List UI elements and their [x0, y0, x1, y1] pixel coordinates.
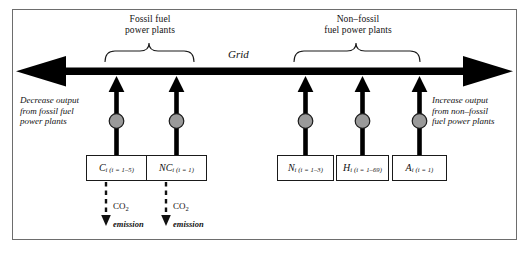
plant-box-C-range: (i = 1–5) — [109, 166, 134, 173]
emission-caption-C: emission — [113, 219, 144, 229]
group-label-non-fossil-line1: Non–fossil — [298, 14, 418, 25]
group-label-non-fossil-line2: fuel power plants — [298, 25, 418, 36]
note-increase-line1: Increase output — [432, 95, 528, 106]
plant-box-N-label: Ni (i = 1–3) — [288, 162, 323, 173]
plant-box-C[interactable]: Ci (i = 1–5) — [86, 155, 147, 181]
plant-box-NC-index: i — [172, 166, 174, 173]
emission-caption-NC: emission — [173, 219, 204, 229]
group-label-fossil-line1: Fossil fuel — [100, 14, 200, 25]
note-increase-output: Increase output from non–fossil fuel pow… — [432, 95, 528, 127]
co2-label-NC: CO2 — [173, 201, 189, 212]
group-label-fossil: Fossil fuel power plants — [100, 14, 200, 36]
plant-box-C-symbol: C — [99, 162, 106, 173]
note-decrease-line3: power plants — [20, 116, 115, 127]
co2-label-C-text: CO — [113, 201, 126, 211]
plant-box-H-index: i — [350, 166, 352, 173]
plant-box-N[interactable]: Ni (i = 1–3) — [277, 155, 334, 181]
note-decrease-line1: Decrease output — [20, 95, 115, 106]
plant-box-A[interactable]: Ai (i = 1) — [392, 155, 447, 181]
plant-box-H-range: (i = 1–69) — [354, 166, 382, 173]
note-increase-line2: from non–fossil — [432, 106, 528, 117]
plant-box-A-index: i — [412, 166, 414, 173]
plant-box-NC[interactable]: NCi (i = 1) — [146, 155, 207, 181]
plant-box-A-label: Ai (i = 1) — [406, 162, 434, 173]
co2-label-C-subscript: 2 — [126, 205, 129, 212]
co2-label-NC-subscript: 2 — [186, 205, 189, 212]
note-increase-line3: fuel power plants — [432, 116, 528, 127]
plant-box-NC-label: NCi (i = 1) — [159, 162, 194, 173]
group-label-non-fossil: Non–fossil fuel power plants — [298, 14, 418, 36]
plant-box-C-label: Ci (i = 1–5) — [99, 162, 134, 173]
plant-box-A-range: (i = 1) — [415, 166, 433, 173]
plant-box-N-symbol: N — [288, 162, 295, 173]
co2-label-C: CO2 — [113, 201, 129, 212]
plant-box-C-index: i — [106, 166, 108, 173]
co2-label-NC-text: CO — [173, 201, 186, 211]
plant-box-NC-range: (i = 1) — [176, 166, 194, 173]
plant-box-NC-symbol: NC — [159, 162, 172, 173]
plant-box-H-label: Hi (i = 1–69) — [343, 162, 382, 173]
figure-root: Fossil fuel power plants Non–fossil fuel… — [0, 0, 529, 254]
plant-box-N-index: i — [295, 166, 297, 173]
plant-box-N-range: (i = 1–3) — [298, 166, 323, 173]
note-decrease-line2: from fossil fuel — [20, 106, 115, 117]
group-label-fossil-line2: power plants — [100, 25, 200, 36]
grid-label: Grid — [228, 48, 249, 60]
note-decrease-output: Decrease output from fossil fuel power p… — [20, 95, 115, 127]
plant-box-H[interactable]: Hi (i = 1–69) — [336, 155, 389, 181]
